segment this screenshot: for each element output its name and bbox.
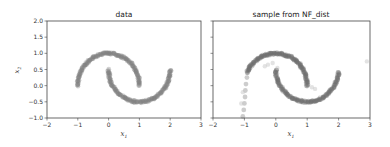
data-point <box>266 62 270 66</box>
data-point <box>76 84 81 89</box>
x-tick-label: −1 <box>240 121 249 128</box>
y-ticks: −1.0−0.50.00.51.01.52.0 <box>28 17 47 121</box>
x-axis-label: x1 <box>288 130 295 139</box>
y-tick-label: −1.0 <box>28 114 43 121</box>
data-point <box>313 87 317 91</box>
data-point <box>275 66 279 70</box>
x-tick-label: 2 <box>168 121 172 128</box>
y-axis-label: x2 <box>13 66 22 73</box>
x-tick-label: 3 <box>368 121 372 128</box>
axes-frame <box>213 21 370 118</box>
axes-data: data −2−10123 −1.0−0.50.00.51.01.52.0 x1… <box>13 10 203 139</box>
data-point <box>239 101 243 105</box>
y-tick-label: −0.5 <box>28 98 43 105</box>
x-ticks: −2−10123 <box>209 118 373 128</box>
x-tick-label: 0 <box>107 121 111 128</box>
x-tick-label: 1 <box>137 121 141 128</box>
data-point <box>336 70 341 75</box>
axes-frame <box>47 21 201 118</box>
figure: data −2−10123 −1.0−0.50.00.51.01.52.0 x1… <box>0 0 390 147</box>
data-point <box>365 59 369 63</box>
x-axis-label: x1 <box>121 130 128 139</box>
y-tick-label: 2.0 <box>33 17 43 24</box>
y-tick-label: 0.5 <box>33 66 43 73</box>
data-point <box>241 108 246 113</box>
x-tick-label: 1 <box>305 121 309 128</box>
scatter-points <box>239 50 369 118</box>
x-tick-label: 0 <box>274 121 278 128</box>
y-tick-label: 1.5 <box>33 33 43 40</box>
data-point <box>244 82 249 87</box>
data-point <box>243 95 248 100</box>
data-point <box>245 75 250 80</box>
scatter-points <box>75 50 174 105</box>
axes-sample: sample from NF_dist −2−10123 x1 <box>209 10 373 139</box>
y-tick-label: 0.0 <box>33 82 43 89</box>
data-point <box>247 67 252 72</box>
x-tick-label: −1 <box>73 121 82 128</box>
data-point <box>270 61 274 65</box>
data-point <box>241 90 245 94</box>
x-tick-label: −2 <box>209 121 218 128</box>
x-tick-label: −2 <box>43 121 52 128</box>
data-point <box>168 68 173 73</box>
x-tick-label: 2 <box>337 121 341 128</box>
x-tick-label: 3 <box>199 121 203 128</box>
y-tick-label: 1.0 <box>33 49 43 56</box>
axes-title: data <box>116 10 133 19</box>
x-ticks: −2−10123 <box>43 118 204 128</box>
axes-title: sample from NF_dist <box>253 10 330 19</box>
